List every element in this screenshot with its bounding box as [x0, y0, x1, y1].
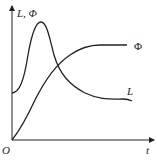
curve-Phi	[12, 45, 127, 140]
plot-svg	[0, 0, 157, 162]
x-axis-label: t	[146, 145, 149, 156]
y-axis-label: L, Φ	[17, 8, 37, 19]
l-curve-label: L	[127, 86, 133, 97]
origin-label: O	[2, 145, 10, 156]
diagram: L, Φ Φ L O t	[0, 0, 157, 162]
curve-L	[12, 22, 132, 101]
phi-curve-label: Φ	[134, 41, 142, 52]
